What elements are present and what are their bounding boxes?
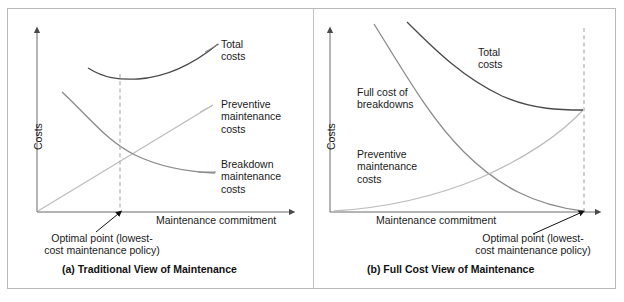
preventive-leader xyxy=(200,105,213,112)
panel-a-label-breakdown-line3: costs xyxy=(221,183,305,195)
panel-a-label-breakdown-costs: Breakdown maintenance costs xyxy=(221,158,305,195)
panel-a-label-preventive-costs: Preventive maintenance costs xyxy=(221,98,305,135)
panel-b-optimal-point-annotation: Optimal point (lowest- cost maintenance … xyxy=(453,232,613,257)
optimal-point-leader-line xyxy=(96,214,118,232)
panel-b-annotation-line1: Optimal point (lowest- xyxy=(453,232,613,244)
panel-b-caption: (b) Full Cost View of Maintenance xyxy=(367,263,534,275)
panel-a-annotation-line2: cost maintenance policy) xyxy=(22,244,182,256)
optimal-point-leader-line xyxy=(533,213,580,234)
panel-b-label-total-costs-line1: Total xyxy=(478,46,538,58)
panel-a-label-total-costs: Total costs xyxy=(221,38,293,63)
figure-container: Costs Maintenance commitment Total costs… xyxy=(0,0,624,302)
total-costs-leader xyxy=(205,44,219,52)
panel-b-label-preventive-costs: Preventive maintenance costs xyxy=(357,148,441,185)
panel-a-label-preventive-line3: costs xyxy=(221,123,305,135)
curve-breakdown-maintenance-costs xyxy=(62,92,215,173)
panel-a-optimal-point-annotation: Optimal point (lowest- cost maintenance … xyxy=(22,232,182,257)
curve-total-costs xyxy=(88,44,218,79)
panel-a-label-preventive-line2: maintenance xyxy=(221,110,305,122)
panel-b-label-preventive-line1: Preventive xyxy=(357,148,441,160)
curve-preventive-maintenance-costs xyxy=(38,105,213,211)
panel-a-label-breakdown-line2: maintenance xyxy=(221,170,305,182)
panel-a-x-axis-label: Maintenance commitment xyxy=(156,214,276,226)
panel-b-label-breakdowns-line2: breakdowns xyxy=(357,98,453,110)
panel-a-label-total-costs-line1: Total xyxy=(221,38,293,50)
panel-b-label-total-costs-line2: costs xyxy=(478,58,538,70)
panel-b-label-preventive-line3: costs xyxy=(357,173,441,185)
panel-b-y-axis-label: Costs xyxy=(325,123,337,150)
panel-a-caption: (a) Traditional View of Maintenance xyxy=(62,263,237,275)
panel-b-label-total-costs: Total costs xyxy=(478,46,538,71)
panel-b-x-axis-label: Maintenance commitment xyxy=(376,214,496,226)
panel-traditional-view: Costs Maintenance commitment Total costs… xyxy=(0,0,312,302)
panel-b-label-breakdowns-line1: Full cost of xyxy=(357,86,453,98)
panel-b-label-preventive-line2: maintenance xyxy=(357,160,441,172)
panel-full-cost-view: Costs Maintenance commitment Total costs… xyxy=(312,0,624,302)
panel-a-y-axis-label: Costs xyxy=(32,123,44,150)
panel-a-label-total-costs-line2: costs xyxy=(221,50,293,62)
panel-b-annotation-line2: cost maintenance policy) xyxy=(453,244,613,256)
panel-b-label-full-cost-of-breakdowns: Full cost of breakdowns xyxy=(357,86,453,111)
panel-a-label-breakdown-line1: Breakdown xyxy=(221,158,305,170)
panel-a-annotation-line1: Optimal point (lowest- xyxy=(22,232,182,244)
panel-a-label-preventive-line1: Preventive xyxy=(221,98,305,110)
